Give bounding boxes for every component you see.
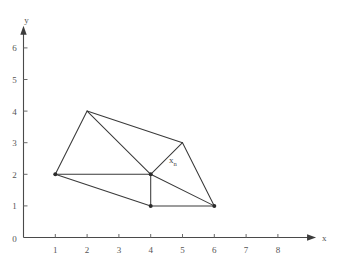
y-axis-label: y	[24, 15, 29, 25]
origin-tick-label: 0	[12, 234, 17, 244]
vertex-markers-group	[53, 172, 216, 208]
vertex-marker	[212, 204, 216, 208]
polygon-edge	[55, 111, 87, 174]
ticks-group: 012345678123456	[12, 43, 280, 254]
x-tick-label: 6	[212, 245, 217, 255]
y-tick-label: 2	[12, 170, 17, 180]
x-axis-arrow-icon	[307, 234, 316, 240]
y-tick-label: 3	[12, 138, 17, 148]
figure-canvas: xy 012345678123456 xn	[0, 0, 347, 272]
polygon-edge	[151, 143, 183, 175]
axes-group: xy	[20, 15, 327, 243]
x-tick-label: 7	[244, 245, 249, 255]
annotation-labels-group: xn	[169, 155, 178, 167]
x-axis-label: x	[322, 233, 327, 243]
x-tick-label: 3	[117, 245, 122, 255]
polygon-edge	[151, 174, 215, 206]
coordinate-plot: xy 012345678123456 xn	[0, 0, 347, 272]
node-label-xn: xn	[169, 155, 178, 167]
y-tick-label: 1	[12, 201, 17, 211]
vertex-marker	[149, 204, 153, 208]
vertex-marker	[149, 172, 153, 176]
polygon-edge	[55, 174, 150, 206]
vertex-marker	[53, 172, 57, 176]
x-tick-label: 1	[53, 245, 58, 255]
x-tick-label: 4	[148, 245, 153, 255]
x-tick-label: 2	[85, 245, 90, 255]
polygon-edges-group	[55, 111, 214, 206]
y-tick-label: 6	[12, 43, 17, 53]
polygon-edge	[87, 111, 182, 143]
y-tick-label: 4	[12, 107, 17, 117]
polygon-edge	[183, 143, 215, 206]
y-axis-arrow-icon	[20, 26, 26, 35]
x-tick-label: 5	[180, 245, 185, 255]
y-tick-label: 5	[12, 75, 17, 85]
node-label-subscript: n	[174, 160, 178, 167]
polygon-edge	[87, 111, 151, 174]
x-tick-label: 8	[276, 245, 281, 255]
